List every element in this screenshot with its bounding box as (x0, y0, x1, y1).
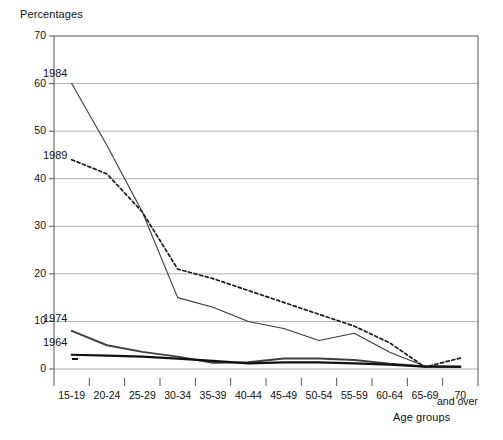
gridlines (54, 36, 478, 369)
y-tick-label-40: 40 (18, 172, 46, 184)
series-label-1989: 1989 (43, 149, 67, 161)
line-chart: Percentages Age groups 010203040506070 1… (0, 0, 503, 440)
series-line-1984 (72, 84, 461, 367)
y-tick-label-70: 70 (18, 29, 46, 41)
series-label-1964: 1964 (43, 336, 67, 348)
series-label-1974: 1974 (43, 312, 67, 324)
y-tick-label-20: 20 (18, 267, 46, 279)
series-line-1974 (72, 331, 461, 367)
plot-area (0, 0, 503, 440)
y-tick-label-10: 10 (18, 314, 46, 326)
x-axis-last-tick-sublabel: and over (437, 395, 478, 407)
series-label-1984: 1984 (43, 67, 67, 79)
y-tick-label-30: 30 (18, 219, 46, 231)
x-axis-ticks (89, 378, 442, 386)
y-tick-label-0: 0 (18, 362, 46, 374)
y-tick-label-60: 60 (18, 77, 46, 89)
y-tick-label-50: 50 (18, 124, 46, 136)
plot-frame (54, 36, 478, 386)
series-line-1989 (72, 160, 461, 367)
